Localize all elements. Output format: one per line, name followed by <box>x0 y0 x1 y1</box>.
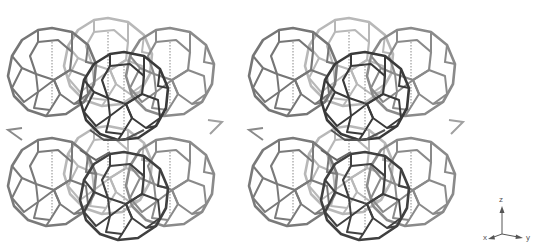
axis-label-z: z <box>499 196 503 204</box>
axis-label-y: y <box>526 234 530 242</box>
axis-label-x: x <box>483 234 487 242</box>
zeolite-framework-right <box>235 0 470 251</box>
stereo-view-right <box>235 0 470 251</box>
zeolite-framework-left <box>0 0 235 251</box>
stereo-view-left <box>0 0 235 251</box>
axes-arrows-icon <box>482 196 532 246</box>
axes-triad: z x y <box>482 196 532 246</box>
